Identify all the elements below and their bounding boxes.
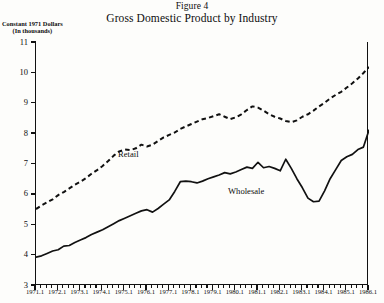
x-tick-label: 1976.1 — [137, 288, 155, 296]
y-axis-title-line1: Constant 1971 Dollars — [2, 20, 63, 27]
x-tick-label: 1981.1 — [248, 288, 266, 296]
series-line-wholesale — [36, 130, 369, 257]
x-tick-label: 1972.1 — [48, 288, 66, 296]
x-tick-label: 1983.1 — [292, 288, 310, 296]
y-tick-label: 7 — [4, 159, 28, 168]
y-tick-label: 6 — [4, 189, 28, 198]
x-tick-label: 1974.1 — [93, 288, 111, 296]
y-axis-title-line2: (In thousands) — [2, 27, 63, 34]
y-tick-label: 11 — [4, 38, 28, 47]
x-tick-label: 1979.1 — [204, 288, 222, 296]
x-tick-label: 1978.1 — [181, 288, 199, 296]
x-tick-label: 1971.1 — [26, 288, 44, 296]
y-tick-label: 10 — [4, 68, 28, 77]
x-tick-label: 1985.1 — [337, 288, 355, 296]
x-tick-label: 1980.1 — [226, 288, 244, 296]
x-tick-label: 1977.1 — [159, 288, 177, 296]
chart-lines — [36, 42, 369, 285]
y-axis-title: Constant 1971 Dollars (In thousands) — [2, 20, 63, 35]
plot-area — [35, 42, 368, 285]
x-tick-label: 1973.1 — [70, 288, 88, 296]
y-tick-label: 5 — [4, 220, 28, 229]
x-axis-tick-labels: 1971.11972.11973.11974.11975.11976.11977… — [0, 288, 384, 300]
x-tick-label: 1984.1 — [315, 288, 333, 296]
y-tick-label: 8 — [4, 129, 28, 138]
figure-container: Figure 4 Gross Domestic Product by Indus… — [0, 0, 384, 303]
figure-number: Figure 4 — [0, 1, 384, 12]
y-tick-label: 4 — [4, 250, 28, 259]
x-tick-label: 1982.1 — [270, 288, 288, 296]
series-line-retail — [36, 67, 369, 209]
series-label-retail: Retail — [118, 150, 139, 159]
x-tick-label: 1986.1 — [359, 288, 377, 296]
y-tick-label: 9 — [4, 98, 28, 107]
series-label-wholesale: Wholesale — [228, 187, 264, 196]
x-tick-label: 1975.1 — [115, 288, 133, 296]
